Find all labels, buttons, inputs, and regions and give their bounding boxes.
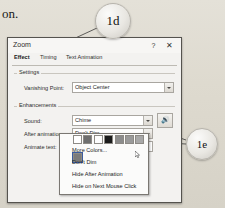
mouse-cursor-icon xyxy=(135,144,140,151)
tab-effect[interactable]: Effect xyxy=(14,54,30,60)
sound-value: Chime xyxy=(75,117,91,123)
settings-group-label: Settings xyxy=(17,69,41,75)
chevron-down-icon[interactable] xyxy=(164,83,173,92)
color-swatch-3[interactable] xyxy=(104,135,113,144)
callout-1e: 1e xyxy=(186,128,218,160)
dialog-titlebar: Zoom ? ✕ xyxy=(8,38,181,53)
color-swatch-0[interactable] xyxy=(73,135,82,144)
tab-timing[interactable]: Timing xyxy=(40,54,57,60)
tab-text-animation[interactable]: Text Animation xyxy=(66,54,102,60)
dialog-tabstrip: Effect Timing Text Animation xyxy=(8,53,181,65)
color-swatch-5[interactable] xyxy=(125,135,134,144)
tabstrip-divider xyxy=(12,65,177,66)
enhancements-group-label: Enhancements xyxy=(17,102,58,108)
animate-text-label: Animate text: xyxy=(24,144,57,150)
tab-active-indicator xyxy=(12,64,37,65)
speaker-icon: 🔊 xyxy=(161,116,170,124)
sound-label: Sound: xyxy=(24,118,42,124)
menu-item-hide-after-animation[interactable]: Hide After Animation xyxy=(72,171,123,177)
color-swatch-4[interactable] xyxy=(115,135,124,144)
menu-item-dont-dim[interactable]: Don't Dim xyxy=(72,159,96,165)
after-animation-label: After animation: xyxy=(24,131,63,137)
vanishing-point-value: Object Center xyxy=(75,84,110,90)
color-swatch-row[interactable] xyxy=(73,135,148,143)
menu-item-more-colors[interactable]: More Colors... xyxy=(72,147,107,153)
callout-1d: 1d xyxy=(95,3,131,39)
vanishing-point-label: Vanishing Point: xyxy=(24,85,64,91)
sound-combo[interactable]: Chime xyxy=(72,115,153,126)
menu-item-hide-on-next-mouse-click[interactable]: Hide on Next Mouse Click xyxy=(72,183,136,189)
chevron-down-icon[interactable] xyxy=(143,116,152,125)
color-swatch-2[interactable] xyxy=(94,135,103,144)
after-animation-dropdown-menu[interactable]: More Colors... Don't Dim Hide After Anim… xyxy=(59,133,149,195)
color-swatch-1[interactable] xyxy=(83,135,92,144)
color-swatch-6[interactable] xyxy=(135,135,144,144)
close-icon[interactable]: ✕ xyxy=(164,40,175,51)
vanishing-point-combo[interactable]: Object Center xyxy=(72,82,174,93)
dialog-title: Zoom xyxy=(13,41,31,48)
help-icon[interactable]: ? xyxy=(148,40,159,51)
play-sound-button[interactable]: 🔊 xyxy=(157,113,173,128)
